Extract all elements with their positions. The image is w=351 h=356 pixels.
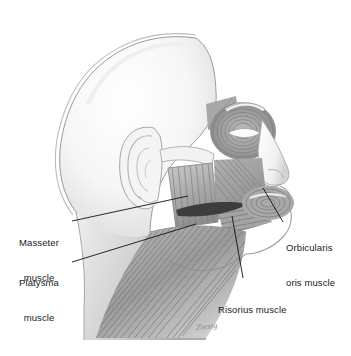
label-platysma-line1: Platysma	[8, 277, 70, 289]
label-masseter-line1: Masseter	[8, 237, 70, 249]
label-orbicularis-line1: Orbicularis	[286, 242, 350, 254]
label-platysma-muscle: Platysma muscle	[8, 254, 70, 335]
masseter-muscle	[168, 163, 218, 228]
orbicularis-oris	[242, 186, 294, 220]
anatomical-illustration: Masseter muscle Platysma muscle Orbicula…	[0, 0, 351, 356]
label-risorius-line1: Risorius muscle	[218, 304, 318, 316]
label-platysma-line2: muscle	[8, 312, 70, 324]
label-risorius-muscle: Risorius muscle	[218, 281, 318, 327]
